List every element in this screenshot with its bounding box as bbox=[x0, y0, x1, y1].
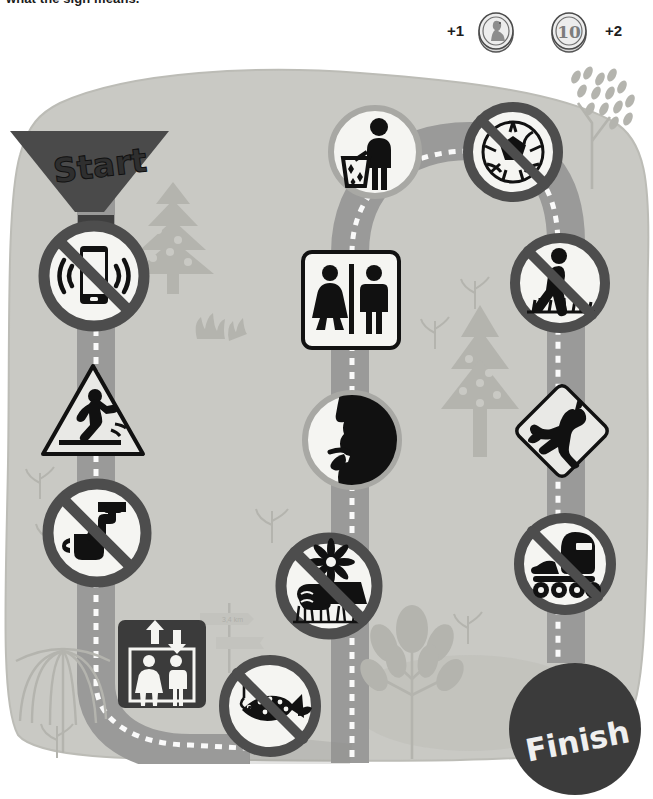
grass-tuft-icon bbox=[448, 608, 488, 648]
sign-no-drinking-water[interactable] bbox=[40, 476, 154, 590]
worksheet-instruction: what the sign means. bbox=[6, 0, 139, 6]
sign-no-rollerblading[interactable] bbox=[511, 510, 619, 618]
coin-ten-icon: 10 bbox=[547, 10, 591, 54]
sign-no-mobile-phones[interactable] bbox=[36, 218, 152, 334]
sign-no-fishing[interactable] bbox=[216, 652, 324, 760]
grass-tuft-icon bbox=[415, 313, 455, 353]
coin-scoring-key: +1 10 +2 bbox=[447, 10, 627, 54]
signpost-distance-text: 3,4 km bbox=[222, 616, 243, 623]
grass-tuft-icon bbox=[35, 718, 79, 762]
coin-points-plus1: +1 bbox=[447, 22, 464, 39]
blossom-tree-top-right-icon bbox=[552, 63, 652, 193]
grass-tuft-icon bbox=[455, 273, 495, 313]
sign-use-litter-bin[interactable] bbox=[327, 104, 423, 200]
sign-kangaroo-crossing[interactable] bbox=[511, 380, 613, 482]
sign-no-picking-flowers[interactable] bbox=[273, 530, 385, 642]
shrub-left-icon bbox=[185, 293, 255, 343]
sign-slippery-surface-warning[interactable] bbox=[37, 360, 149, 462]
sign-elevator[interactable] bbox=[116, 618, 208, 710]
coin-head-icon bbox=[474, 10, 518, 54]
sign-no-ball-games[interactable] bbox=[461, 100, 565, 204]
park-board: 3,4 km Start Finish bbox=[0, 63, 653, 764]
sign-keep-off-the-grass[interactable] bbox=[507, 230, 613, 336]
svg-text:10: 10 bbox=[557, 22, 581, 42]
sign-toilets[interactable] bbox=[301, 250, 401, 350]
sign-silence[interactable] bbox=[300, 388, 404, 492]
coin-points-plus2: +2 bbox=[605, 22, 622, 39]
